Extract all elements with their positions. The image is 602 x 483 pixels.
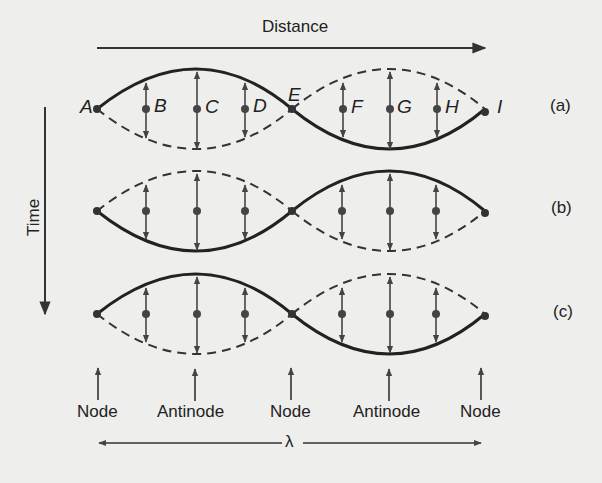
position-pointer-arrows [98,368,481,401]
point-label-h: H [445,96,459,118]
wave-row-a [93,69,489,149]
wave-row-c [93,274,489,354]
row-tag-b: (b) [551,198,572,218]
wave-row-b [93,171,489,251]
marker-label-node-1: Node [77,402,118,422]
point-label-b: B [154,95,167,117]
marker-label-antinode-2: Antinode [353,402,420,422]
point-label-f: F [351,96,363,118]
point-label-d: D [253,95,267,117]
point-label-c: C [205,96,219,118]
point-label-e: E [288,84,301,106]
wavelength-symbol: λ [285,432,294,452]
time-label: Time [24,199,44,236]
point-label-i: I [497,96,502,118]
point-label-a: A [80,96,93,118]
marker-label-node-2: Node [270,402,311,422]
point-label-g: G [397,96,412,118]
distance-label: Distance [262,17,328,37]
marker-label-node-3: Node [460,402,501,422]
row-tag-a: (a) [550,96,571,116]
marker-label-antinode-1: Antinode [157,402,224,422]
row-tag-c: (c) [553,302,573,322]
